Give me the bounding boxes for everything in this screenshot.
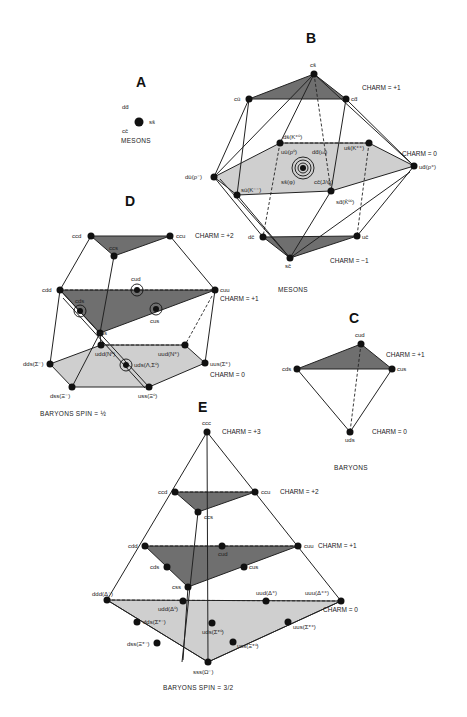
label-cus-c: cus xyxy=(397,366,406,372)
charm-0-label-e: CHARM = 0 xyxy=(323,606,358,613)
panel-b-letter: B xyxy=(306,30,316,46)
label-ud: ud̄(ρ⁺) xyxy=(419,164,436,170)
label-su: sū(K⁻⁻) xyxy=(241,187,261,193)
label-ccd-d: ccd xyxy=(72,233,81,239)
label-uc: uc̄ xyxy=(362,234,368,240)
label-css-e: css xyxy=(172,584,181,590)
label-cud-c: cud xyxy=(355,332,365,338)
label-udd-e: udd(Δ⁰) xyxy=(158,606,178,612)
label-uss-e: uss(Ξ*⁰) xyxy=(237,643,259,649)
label-uus-d: uus(Σ⁺) xyxy=(210,361,230,367)
panel-a-letter: A xyxy=(136,74,146,90)
panel-a-caption: MESONS xyxy=(121,137,151,144)
label-ccs-d: ccs xyxy=(109,245,118,251)
label-sss-e: sss(Ω⁻) xyxy=(193,669,213,675)
label-ddd-e: ddd(Δ⁻) xyxy=(92,591,113,597)
label-uds-e: uds(Σ*⁰) xyxy=(202,629,224,635)
panel-d-letter: D xyxy=(125,193,135,209)
label-cds-d: cds xyxy=(75,298,84,304)
label-cds-c: cds xyxy=(282,366,291,372)
panel-e-caption: BARYONS SPIN = 3/2 xyxy=(163,684,234,691)
label-dds-d: dds(Σ⁻) xyxy=(23,361,43,367)
label-uds-c: uds xyxy=(345,437,355,443)
panel-d: D ccd xyxy=(23,193,259,417)
label-us: us̄(K⁺⁺) xyxy=(344,145,364,151)
label-cdd-d: cdd xyxy=(42,287,52,293)
label-ds: ds̄(K⁺⁰) xyxy=(283,134,302,140)
label-dc: dc̄ xyxy=(248,234,254,240)
label-uud-e: uud(Δ⁺) xyxy=(256,590,277,596)
label-uud-d: uud(N⁺) xyxy=(158,351,179,357)
label-ccd-e: ccd xyxy=(158,489,167,495)
label-uuu-e: uuu(Δ⁺⁺) xyxy=(305,590,329,596)
label-udd-d: udd(N⁰) xyxy=(95,351,115,357)
charm-plus1-label-c: CHARM = +1 xyxy=(386,351,425,358)
panel-e: E xyxy=(92,399,358,691)
panel-c: C cud cds cus uds CHARM = +1 CHARM = 0 B… xyxy=(282,310,425,471)
charm-plus2-label-e: CHARM = +2 xyxy=(280,488,319,495)
panel-a: A dd̄ ss̄ cc̄ MESONS xyxy=(121,74,155,144)
charm-0-label-c: CHARM = 0 xyxy=(372,428,407,435)
label-cdd-e: cdd xyxy=(128,543,138,549)
label-cus-d: cus xyxy=(150,318,159,324)
label-dss-e: dss(Ξ*⁻) xyxy=(127,641,150,647)
charm-plus1-triangle xyxy=(249,74,346,99)
charm-plus2-triangle-e xyxy=(175,492,255,512)
label-cuu-e: cuu xyxy=(304,543,314,549)
label-cds-e: cds xyxy=(150,564,159,570)
charm-0-label-d: CHARM = 0 xyxy=(210,371,245,378)
label-cuu-d: cuu xyxy=(220,287,230,293)
meson-dot xyxy=(135,118,144,127)
label-uss-d: uss(Ξ⁰) xyxy=(138,393,157,399)
panel-d-caption: BARYONS SPIN = ½ xyxy=(40,410,107,417)
label-uds-d: uds(Λ,Σ⁰) xyxy=(134,362,159,368)
label-cs: cs̄ xyxy=(310,62,316,68)
label-uus-e: uus(Σ*⁺) xyxy=(293,624,316,630)
label-sd: sd̄(K̄⁰⁰) xyxy=(336,199,354,205)
charm-minus1-label: CHARM = −1 xyxy=(330,257,369,264)
panel-b: B xyxy=(185,30,437,293)
charm-plus1-triangle-c xyxy=(297,344,392,369)
label-cc: cc̄ xyxy=(122,128,128,134)
charm-0-triangle xyxy=(107,600,341,662)
label-dss-d: dss(Ξ⁻) xyxy=(50,393,70,399)
charm-plus2-label-d: CHARM = +2 xyxy=(195,232,234,239)
label-dd-b: dd̄(ω) xyxy=(312,149,327,155)
label-cc-b: cc̄(J/ψ) xyxy=(314,179,333,185)
panel-e-letter: E xyxy=(198,399,207,415)
label-cd: cd̄ xyxy=(351,96,357,102)
charm-plus1-label-d: CHARM = +1 xyxy=(220,295,259,302)
charm-plus2-triangle xyxy=(91,236,170,256)
panel-b-caption: MESONS xyxy=(278,286,308,293)
label-cu: cū xyxy=(234,96,240,102)
charm-plus3-label-e: CHARM = +3 xyxy=(222,428,261,435)
label-ccu-e: ccu xyxy=(261,489,270,495)
label-ss-b: ss̄(φ) xyxy=(281,179,295,185)
label-cus-e: cus xyxy=(249,564,258,570)
label-uu: uū(ρ⁰) xyxy=(281,149,297,155)
label-ccu-d: ccu xyxy=(176,233,185,239)
label-cud-d: cud xyxy=(131,276,141,282)
label-du: dū(ρ⁻) xyxy=(185,174,202,180)
charm-plus1-triangle-d xyxy=(60,290,215,333)
label-dds-e: dds(Σ*⁻) xyxy=(143,619,166,625)
charm-plus1-label-e: CHARM = +1 xyxy=(318,542,357,549)
particle-multiplet-diagram: A dd̄ ss̄ cc̄ MESONS B xyxy=(0,0,467,717)
label-ccs-e: ccs xyxy=(204,514,213,520)
charm-plus1-label: CHARM = +1 xyxy=(362,84,401,91)
charm-minus1-triangle xyxy=(263,236,357,258)
label-ccc-e: ccc xyxy=(202,420,211,426)
panel-c-caption: BARYONS xyxy=(334,464,368,471)
panel-c-letter: C xyxy=(349,310,359,326)
label-sc: sc̄ xyxy=(285,263,291,269)
label-ss: ss̄ xyxy=(149,119,155,125)
charm-0-label: CHARM = 0 xyxy=(402,150,437,157)
label-dd: dd̄ xyxy=(122,104,129,110)
label-css-d: css xyxy=(98,330,107,336)
label-cud-e: cud xyxy=(218,551,228,557)
